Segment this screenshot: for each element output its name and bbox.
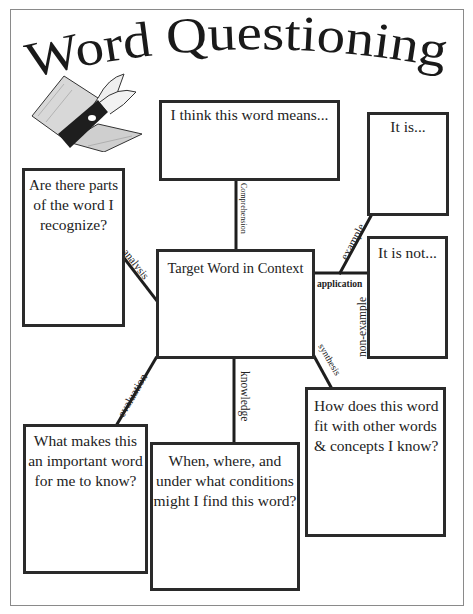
parts-prompt-line-1: Are there parts (25, 171, 122, 195)
meaning-prompt: I think this word means... (162, 103, 337, 125)
conditions-prompt-line-1: When, where, and (153, 445, 297, 471)
non-example-label: non-example (356, 297, 368, 357)
conditions-prompt-line-2: under what conditions (153, 471, 297, 491)
it-is-prompt: It is... (370, 115, 446, 137)
fit-box[interactable]: How does this word fit with other words … (305, 387, 446, 537)
fit-prompt-line-2: fit with other words (308, 416, 443, 436)
fit-prompt-line-3: & concepts I know? (308, 436, 443, 456)
parts-prompt-line-3: recognize? (25, 215, 122, 235)
knowledge-label: knowledge (239, 371, 251, 421)
target-word-box[interactable]: Target Word in Context (156, 249, 315, 359)
conditions-box[interactable]: When, where, and under what conditions m… (150, 442, 300, 591)
meaning-box[interactable]: I think this word means... (159, 100, 340, 181)
application-label: application (317, 279, 362, 289)
fit-prompt-line-1: How does this word (308, 390, 443, 416)
parts-box[interactable]: Are there parts of the word I recognize? (22, 168, 125, 327)
important-prompt-line-1: What makes this (26, 427, 145, 451)
target-word-label: Target Word in Context (159, 252, 312, 278)
important-prompt-line-2: an important word (26, 451, 145, 471)
comprehension-label: Comprehension (239, 183, 248, 234)
conditions-prompt-line-3: might I find this word? (153, 491, 297, 511)
it-is-not-prompt: It is not... (370, 239, 445, 263)
important-prompt-line-3: for me to know? (26, 471, 145, 491)
parts-prompt-line-2: of the word I (25, 195, 122, 215)
important-box[interactable]: What makes this an important word for me… (23, 424, 148, 574)
it-is-box[interactable]: It is... (367, 112, 449, 216)
it-is-not-box[interactable]: It is not... (367, 236, 448, 359)
